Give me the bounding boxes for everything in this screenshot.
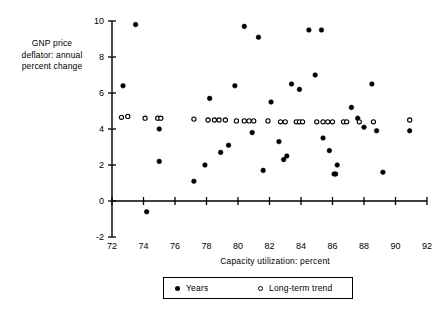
y-axis-tick-label: 2: [99, 160, 104, 170]
data-point-years: [277, 139, 282, 144]
chart-legend: Years Long-term trend: [163, 277, 353, 299]
data-point-years: [203, 163, 208, 168]
x-axis-title: Capacity utilization: percent: [110, 256, 439, 266]
data-point-long-term-trend: [371, 120, 375, 124]
x-axis-tick-label: 90: [390, 241, 400, 251]
legend-label-years: Years: [186, 283, 208, 293]
data-point-years: [374, 129, 379, 134]
data-point-long-term-trend: [357, 120, 361, 124]
x-axis-tick-label: 88: [359, 241, 369, 251]
x-axis-tick-label: 82: [264, 241, 274, 251]
data-point-years: [218, 150, 223, 155]
data-point-years: [269, 100, 274, 105]
data-point-long-term-trend: [345, 120, 349, 124]
data-point-long-term-trend: [321, 120, 325, 124]
data-point-years: [327, 148, 332, 153]
data-point-years: [307, 28, 312, 33]
data-point-years: [133, 22, 138, 27]
data-point-years: [285, 154, 290, 159]
data-point-years: [335, 163, 340, 168]
legend-marker-years: [175, 286, 180, 291]
x-axis-tick-label: 78: [201, 241, 211, 251]
y-axis-title-line-1: GNP price: [6, 38, 98, 50]
data-point-long-term-trend: [212, 118, 216, 122]
data-point-years: [333, 172, 338, 177]
y-axis-tick-label: 10: [94, 16, 104, 26]
x-axis-tick-label: 72: [107, 241, 117, 251]
data-point-long-term-trend: [330, 120, 334, 124]
data-point-long-term-trend: [126, 114, 130, 118]
x-axis-tick-label: 84: [296, 241, 306, 251]
data-point-long-term-trend: [159, 116, 163, 120]
data-point-long-term-trend: [266, 119, 270, 123]
x-axis-tick-label: 76: [170, 241, 180, 251]
data-point-long-term-trend: [283, 120, 287, 124]
data-point-years: [297, 87, 302, 92]
x-axis-tick-label: 74: [138, 241, 148, 251]
data-point-long-term-trend: [315, 120, 319, 124]
data-point-years: [207, 96, 212, 101]
y-axis-title-line-2: deflator: annual: [6, 50, 98, 62]
y-axis-tick-label: 4: [99, 124, 104, 134]
scatter-chart-figure: GNP price deflator: annual percent chang…: [0, 0, 439, 316]
x-axis-tick-label: 80: [233, 241, 243, 251]
data-point-long-term-trend: [143, 116, 147, 120]
data-point-long-term-trend: [326, 120, 330, 124]
data-point-years: [250, 130, 255, 135]
data-point-years: [242, 24, 247, 29]
y-axis-tick-label: 6: [99, 88, 104, 98]
data-point-years: [226, 143, 231, 148]
legend-marker-long-term-trend: [258, 286, 263, 291]
data-point-years: [157, 127, 162, 132]
data-point-long-term-trend: [252, 119, 256, 123]
data-point-years: [144, 210, 149, 215]
data-point-long-term-trend: [300, 120, 304, 124]
data-point-years: [121, 84, 126, 89]
data-point-years: [157, 159, 162, 164]
data-point-years: [319, 28, 324, 33]
data-point-years: [321, 136, 326, 141]
data-point-long-term-trend: [278, 120, 282, 124]
data-point-years: [362, 125, 367, 130]
data-point-years: [256, 35, 261, 40]
data-point-long-term-trend: [206, 118, 210, 122]
y-axis-tick-label: -2: [96, 232, 104, 242]
data-point-years: [349, 105, 354, 110]
data-point-years: [370, 82, 375, 87]
data-point-years: [407, 129, 412, 134]
data-point-long-term-trend: [234, 119, 238, 123]
data-point-long-term-trend: [119, 115, 123, 119]
y-axis-title: GNP price deflator: annual percent chang…: [6, 38, 98, 73]
data-point-years: [192, 179, 197, 184]
x-axis-tick-label: 92: [422, 241, 432, 251]
data-point-years: [289, 82, 294, 87]
data-point-long-term-trend: [247, 119, 251, 123]
legend-label-long-term-trend: Long-term trend: [269, 283, 332, 293]
data-point-long-term-trend: [242, 119, 246, 123]
data-point-long-term-trend: [217, 118, 221, 122]
y-axis-title-line-3: percent change: [6, 61, 98, 73]
data-point-years: [313, 73, 318, 78]
data-point-long-term-trend: [223, 118, 227, 122]
data-point-long-term-trend: [408, 118, 412, 122]
y-axis-tick-label: 0: [99, 196, 104, 206]
data-point-years: [233, 84, 238, 89]
data-point-years: [261, 168, 266, 173]
y-axis-tick-label: 8: [99, 52, 104, 62]
data-point-years: [381, 170, 386, 175]
x-axis-tick-label: 86: [327, 241, 337, 251]
data-point-long-term-trend: [192, 117, 196, 121]
